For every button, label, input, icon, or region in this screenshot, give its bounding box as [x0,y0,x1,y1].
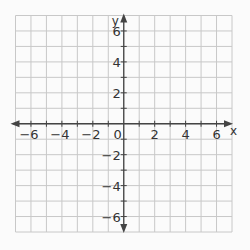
y-tick-label: −4 [102,179,121,194]
x-axis-label: x [230,124,237,138]
y-tick-label: 4 [112,55,120,70]
y-tick-label: −6 [102,210,121,225]
x-tick-label: 6 [212,127,220,142]
x-tick-label: 4 [181,127,189,142]
x-tick-label: −4 [50,127,69,142]
y-tick-label: −2 [102,148,121,163]
coordinate-plane: −6−4−20246642−2−4−6 x y [0,0,250,250]
y-tick-label: 2 [112,86,120,101]
x-tick-label: 2 [151,127,159,142]
y-axis-up-arrow-icon [120,14,127,23]
x-tick-label: −2 [81,127,100,142]
x-tick-label: −6 [19,127,38,142]
y-axis-label: y [112,14,119,28]
x-tick-label: 0 [114,127,122,142]
